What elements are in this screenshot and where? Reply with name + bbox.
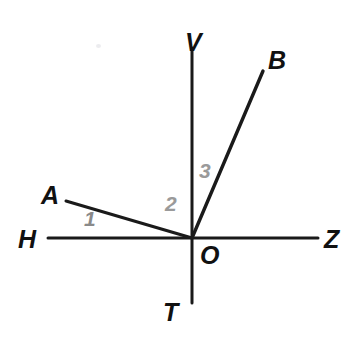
angle-label-2: 2 [165, 193, 177, 214]
angle-label-3: 3 [199, 160, 211, 181]
point-label-Z: Z [324, 227, 339, 252]
point-label-B: B [268, 48, 286, 73]
ray-line-OB [192, 71, 263, 238]
point-label-A: A [41, 183, 59, 208]
angle-diagram-figure: V B A H O Z T 1 2 3 [0, 0, 363, 347]
point-label-H: H [18, 227, 36, 252]
angle-label-1: 1 [84, 208, 96, 229]
point-label-O: O [200, 243, 219, 268]
point-label-V: V [185, 30, 202, 55]
point-label-T: T [163, 300, 178, 325]
diagram-canvas [0, 0, 363, 347]
